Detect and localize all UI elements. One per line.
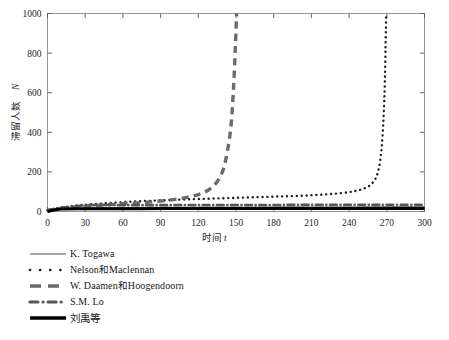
legend-item-2[interactable]: W. Daamen和Hoogendoorn bbox=[26, 278, 286, 294]
legend-item-3[interactable]: S.M. Lo bbox=[26, 294, 286, 310]
x-axis-title: 时间 t bbox=[202, 232, 227, 243]
x-tick-label: 180 bbox=[267, 218, 282, 228]
legend-item-4[interactable]: 刘禹等 bbox=[26, 310, 286, 326]
legend-line-sample-icon bbox=[26, 262, 70, 278]
x-axis-title-variable: t bbox=[224, 233, 227, 243]
x-tick-label: 240 bbox=[342, 218, 357, 228]
legend-line-sample-icon bbox=[26, 310, 70, 326]
y-axis-title: 滞留人数 N bbox=[10, 83, 21, 141]
series-line-2 bbox=[48, 14, 237, 211]
legend-item-label: S.M. Lo bbox=[70, 296, 104, 308]
x-tick-label: 300 bbox=[417, 218, 432, 228]
y-axis-title-variable: N bbox=[11, 83, 21, 91]
legend-item-label: K. Togawa bbox=[70, 248, 114, 260]
x-tick-label: 150 bbox=[229, 218, 244, 228]
plot-frame bbox=[48, 14, 425, 212]
legend-item-label: Nelson和Maclennan bbox=[70, 264, 154, 276]
x-tick-label: 0 bbox=[45, 218, 50, 228]
y-tick-label: 1000 bbox=[23, 9, 42, 19]
y-axis-title-cjk: 滞留人数 bbox=[10, 101, 21, 141]
chart-legend: K. TogawaNelson和MaclennanW. Daamen和Hooge… bbox=[26, 246, 286, 326]
x-tick-label: 210 bbox=[304, 218, 319, 228]
legend-item-label: W. Daamen和Hoogendoorn bbox=[70, 280, 184, 292]
x-tick-label: 30 bbox=[80, 218, 90, 228]
y-tick-label: 0 bbox=[37, 207, 42, 217]
y-axis-tick-labels: 02004006008001000 bbox=[23, 9, 42, 217]
y-tick-label: 200 bbox=[27, 167, 42, 177]
y-tick-label: 800 bbox=[27, 49, 42, 59]
x-axis-title-cjk: 时间 bbox=[202, 232, 222, 243]
x-tick-label: 60 bbox=[118, 218, 128, 228]
x-tick-label: 120 bbox=[191, 218, 206, 228]
x-tick-label: 270 bbox=[380, 218, 395, 228]
x-axis-ticks bbox=[48, 14, 425, 212]
chart-figure: 0306090120150180210240270300 02004006008… bbox=[0, 0, 449, 340]
legend-line-sample-icon bbox=[26, 246, 70, 262]
x-tick-label: 90 bbox=[156, 218, 166, 228]
legend-line-sample-icon bbox=[26, 294, 70, 310]
legend-item-label: 刘禹等 bbox=[70, 312, 100, 324]
legend-line-sample-icon bbox=[26, 278, 70, 294]
data-series-group bbox=[48, 14, 425, 212]
legend-item-0[interactable]: K. Togawa bbox=[26, 246, 286, 262]
y-axis-ticks bbox=[48, 14, 425, 212]
y-tick-label: 400 bbox=[27, 128, 42, 138]
y-tick-label: 600 bbox=[27, 88, 42, 98]
x-axis-tick-labels: 0306090120150180210240270300 bbox=[45, 218, 432, 228]
legend-item-1[interactable]: Nelson和Maclennan bbox=[26, 262, 286, 278]
